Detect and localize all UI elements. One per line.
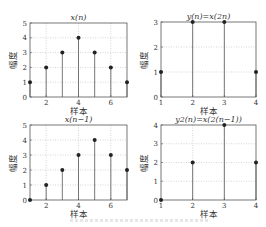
stem-marker (109, 65, 113, 69)
stem-marker (44, 65, 48, 69)
stem-marker (254, 161, 258, 165)
stem-plot-figure: 246012345x(n)样本幅度12340123y(n)=x(2n)样本幅度2… (0, 0, 266, 227)
x-tick-label: 4 (254, 202, 259, 210)
y-tick-label: 3 (23, 49, 27, 57)
x-tick-label: 4 (254, 99, 259, 107)
stem-marker (60, 51, 64, 55)
y-tick-label: 1 (154, 178, 158, 186)
axes-box (161, 22, 256, 97)
y-axis-label: 幅度 (139, 51, 149, 69)
stem-marker (44, 183, 48, 187)
y-tick-label: 0 (154, 197, 158, 205)
stem-marker (159, 70, 163, 74)
stem-marker (109, 153, 113, 157)
x-tick-label: 2 (44, 99, 48, 107)
x-tick-label: 3 (222, 202, 226, 210)
subplot-title: y(n)=x(2n) (186, 12, 231, 21)
y-tick-label: 0 (154, 94, 158, 102)
x-tick-label: 1 (159, 99, 163, 107)
x-tick-label: 3 (222, 99, 226, 107)
stem-marker (125, 80, 129, 84)
y-tick-label: 3 (23, 152, 27, 160)
y-axis-label: 幅度 (8, 51, 18, 69)
y-tick-label: 4 (23, 34, 28, 42)
subplot-1: 246012345x(n)样本幅度 (8, 13, 129, 116)
stem-marker (191, 161, 195, 165)
stem-marker (93, 138, 97, 142)
y-tick-label: 5 (23, 20, 27, 28)
stem-marker (125, 168, 129, 172)
x-tick-label: 1 (159, 202, 163, 210)
y-axis-label: 幅度 (139, 154, 149, 172)
y-tick-label: 4 (154, 122, 159, 130)
y-tick-label: 0 (23, 197, 27, 205)
y-tick-label: 1 (154, 69, 158, 77)
x-tick-label: 2 (44, 202, 48, 210)
subplot-4: 123401234y2(n)=x(2(n−1))样本幅度 (139, 115, 259, 219)
x-axis-label: 样本 (200, 209, 218, 219)
y-tick-label: 2 (154, 44, 158, 52)
stem-marker (77, 153, 81, 157)
y-tick-label: 2 (23, 167, 27, 175)
y-tick-label: 3 (154, 140, 158, 148)
stem-marker (159, 198, 163, 202)
y-tick-label: 0 (23, 94, 27, 102)
figure-caption-faint (70, 219, 210, 222)
y-tick-label: 4 (23, 137, 28, 145)
stem-marker (77, 36, 81, 40)
y-tick-label: 3 (154, 19, 158, 27)
stem-marker (28, 198, 32, 202)
x-tick-label: 6 (109, 202, 114, 210)
y-tick-label: 5 (23, 122, 27, 130)
y-tick-label: 1 (23, 182, 27, 190)
stem-marker (60, 168, 64, 172)
y-axis-label: 幅度 (8, 154, 18, 172)
stem-marker (28, 80, 32, 84)
subplot-title: y2(n)=x(2(n−1)) (174, 115, 242, 124)
subplot-3: 246012345x(n−1)样本幅度 (8, 115, 129, 219)
x-axis-label: 样本 (70, 209, 88, 219)
subplot-title: x(n) (71, 13, 87, 22)
x-tick-label: 6 (109, 99, 114, 107)
y-tick-label: 1 (23, 79, 27, 87)
subplot-2: 12340123y(n)=x(2n)样本幅度 (139, 12, 259, 116)
x-tick-label: 2 (190, 202, 194, 210)
y-tick-label: 2 (23, 64, 27, 72)
subplot-title: x(n−1) (65, 115, 93, 124)
x-tick-label: 2 (190, 99, 194, 107)
stem-marker (93, 51, 97, 55)
y-tick-label: 2 (154, 159, 158, 167)
stem-marker (254, 70, 258, 74)
